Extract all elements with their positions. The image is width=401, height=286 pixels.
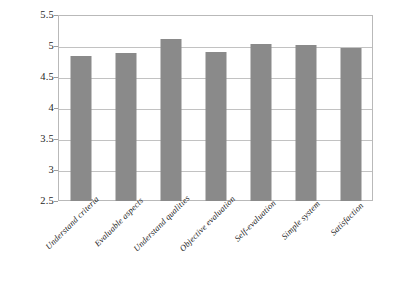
bar-slot <box>283 15 328 201</box>
y-axis-tick-label: 2.5 <box>8 196 54 206</box>
y-axis-tick-label: 3.5 <box>8 134 54 144</box>
bar[interactable] <box>295 45 316 201</box>
bar[interactable] <box>205 52 226 201</box>
bar-slot <box>58 15 103 201</box>
y-axis-tick-label: 5.5 <box>8 10 54 20</box>
bar-slot <box>238 15 283 201</box>
bar-slot <box>193 15 238 201</box>
bar[interactable] <box>160 39 181 201</box>
bar[interactable] <box>115 53 136 201</box>
bar[interactable] <box>70 56 91 201</box>
bar-slot <box>328 15 373 201</box>
bar-chart: 5.554.543.532.5 Understand criteriaEvalu… <box>0 0 401 286</box>
y-axis: 5.554.543.532.5 <box>0 15 54 201</box>
bar-slot <box>103 15 148 201</box>
y-axis-tick-label: 5 <box>8 41 54 51</box>
bar[interactable] <box>250 44 271 201</box>
y-axis-tick-label: 4.5 <box>8 72 54 82</box>
x-axis-labels: Understand criteriaEvaluable aspectsUnde… <box>58 201 373 286</box>
y-axis-tick-label: 3 <box>8 165 54 175</box>
x-axis-tick-label: Self-evaluation <box>233 198 278 243</box>
bar-slot <box>148 15 193 201</box>
bar[interactable] <box>340 48 361 201</box>
x-axis-tick-label: Simple system <box>280 199 322 241</box>
x-axis-tick-label: Satisfaction <box>329 201 365 237</box>
bars-layer <box>58 15 373 201</box>
y-axis-tick-label: 4 <box>8 103 54 113</box>
